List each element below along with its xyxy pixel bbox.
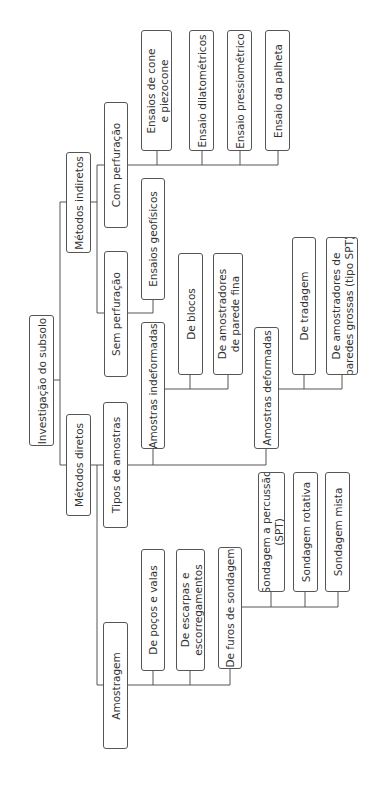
node-label: (SPT) <box>272 472 285 592</box>
node-label: Sondagem mista <box>331 488 344 577</box>
node-ensaios-cone-piezocone: Ensaios de conee piezocone <box>141 30 172 151</box>
node-label: Com perfuração <box>110 123 123 208</box>
node-label: Ensaio dilatométricos <box>195 34 208 147</box>
node-ensaios-geofisicos: Ensaios geofísicos <box>141 178 165 300</box>
node-de-escarpas-escorregamentos: De escarpas eescorregamentos <box>176 549 205 671</box>
node-sondagem-percussao-spt: Sondagem a percussão(SPT) <box>258 472 285 592</box>
node-label: escorregamentos <box>191 564 204 655</box>
node-de-tradagem: De tradagem <box>292 237 316 375</box>
node-label: De amostradores de <box>330 237 343 375</box>
node-metodos-indiretos: Métodos indiretos <box>66 152 91 253</box>
node-label: Ensaio pressiométrico <box>233 33 246 149</box>
node-label: De amostradores <box>216 269 229 359</box>
node-label: Amostragem <box>109 652 122 720</box>
node-label: e piezocone <box>157 48 170 133</box>
node-metodos-diretos: Métodos diretos <box>66 414 91 516</box>
node-label: Sem perfuração <box>110 272 123 356</box>
node-label: De tradagem <box>298 271 311 340</box>
node-label: paredes grossas (tipo SPT) <box>342 237 355 375</box>
node-label: Amostras indeformadas <box>147 323 160 448</box>
node-label: de parede fina <box>228 269 241 359</box>
node-label: Métodos diretos <box>72 423 85 507</box>
node-label: De escarpas e <box>178 564 191 655</box>
node-label: Investigação do subsolo <box>35 317 48 443</box>
node-label: Ensaio da palheta <box>271 44 284 138</box>
node-label: Amostras deformadas <box>260 330 273 446</box>
node-label: De poços e valas <box>147 565 160 654</box>
node-de-amostradores-parede-fina: De amostradoresde parede fina <box>213 253 243 375</box>
node-ensaio-palheta: Ensaio da palheta <box>265 30 290 151</box>
node-de-blocos: De blocos <box>178 253 203 375</box>
node-label: Ensaios geofísicos <box>147 191 160 287</box>
diagram-canvas: Investigação do subsolo Métodos indireto… <box>0 0 370 788</box>
node-de-amostradores-paredes-grossas: De amostradores deparedes grossas (tipo … <box>326 237 358 375</box>
node-de-furos-de-sondagem: De furos de sondagem <box>218 547 242 669</box>
node-ensaio-dilatometricos: Ensaio dilatométricos <box>189 30 214 151</box>
node-amostras-deformadas: Amostras deformadas <box>254 327 279 449</box>
node-label: Sondagem a percussão <box>259 472 272 592</box>
node-label: De blocos <box>184 288 197 340</box>
node-sondagem-mista: Sondagem mista <box>325 472 350 592</box>
node-label: Tipos de amostras <box>109 417 122 513</box>
node-amostragem: Amostragem <box>103 622 128 749</box>
node-label: Sondagem rotativa <box>299 482 312 582</box>
node-label: Métodos indiretos <box>72 156 85 250</box>
node-label: Ensaios de cone <box>144 48 157 133</box>
node-sondagem-rotativa: Sondagem rotativa <box>293 472 318 592</box>
node-tipos-de-amostras: Tipos de amostras <box>103 402 128 528</box>
node-de-pocos-e-valas: De poços e valas <box>141 549 165 671</box>
node-ensaio-pressiometrico: Ensaio pressiométrico <box>227 30 252 151</box>
node-com-perfuracao: Com perfuração <box>104 102 128 228</box>
node-label: De furos de sondagem <box>224 548 237 667</box>
node-amostras-indeformadas: Amostras indeformadas <box>141 322 165 449</box>
node-sem-perfuracao: Sem perfuração <box>104 251 128 377</box>
node-investigacao-do-subsolo: Investigação do subsolo <box>29 315 54 446</box>
